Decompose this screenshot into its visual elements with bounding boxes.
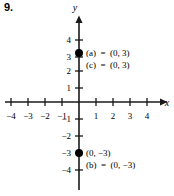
y-tick-label-1: 1 [67, 83, 72, 93]
annotation-point-d: (0, −3) [86, 148, 111, 158]
y-tick-label-neg3: −3 [61, 148, 71, 158]
x-tick-label-2: 2 [111, 111, 116, 121]
y-axis-label: y [72, 2, 78, 13]
x-tick-label-4: 4 [145, 111, 150, 121]
figure-container: 9. y x −4 −3 −2 −1 [0, 0, 174, 196]
x-axis-label: x [164, 97, 170, 108]
coordinate-plane: y x −4 −3 −2 −1 1 2 3 4 4 3 2 1 −1 −2 −3… [0, 0, 174, 196]
y-tick-label-neg2: −2 [61, 131, 71, 141]
y-tick-label-3: 3 [67, 52, 72, 62]
x-tick-label-neg2: −2 [40, 111, 50, 121]
annotation-b: (b) = (0, −3) [86, 160, 135, 170]
data-point-0-3[interactable] [75, 49, 83, 57]
data-point-0-neg3[interactable] [75, 149, 83, 157]
x-tick-label-1: 1 [94, 111, 99, 121]
x-tick-label-neg3: −3 [23, 111, 33, 121]
x-tick-label-neg4: −4 [6, 111, 16, 121]
y-tick-label-neg1: −1 [61, 114, 71, 124]
annotation-a: (a) = (0, 3) [86, 48, 130, 58]
annotation-c: (c) = (0, 3) [86, 60, 130, 70]
y-axis-arrowhead [75, 16, 82, 24]
y-tick-label-2: 2 [67, 66, 72, 76]
y-tick-label-4: 4 [67, 35, 72, 45]
x-tick-label-3: 3 [128, 111, 133, 121]
y-tick-label-neg4: −4 [61, 165, 71, 175]
